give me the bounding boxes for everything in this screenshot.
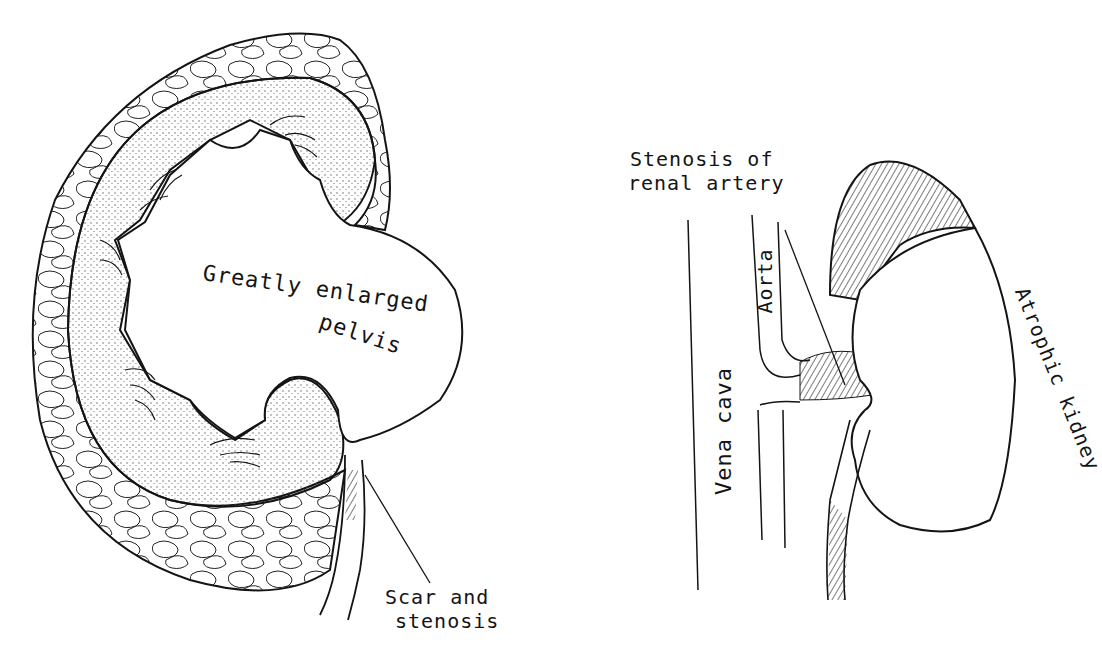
label-scar-and: Scar and [385,586,489,608]
label-aorta: Aorta [754,248,776,313]
hydronephrotic-kidney [33,34,463,620]
label-renal-artery: renal artery [628,172,785,194]
label-stenosis: stenosis [395,610,499,632]
label-stenosis-of: Stenosis of [630,148,773,170]
label-vena-cava: Vena cava [713,367,735,495]
atrophic-kidney-diagram [688,162,1015,600]
